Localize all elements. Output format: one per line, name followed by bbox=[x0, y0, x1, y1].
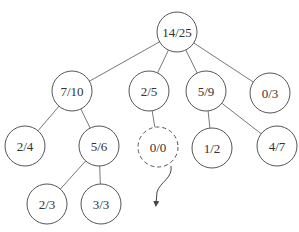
tree-node-n7: 0/0 bbox=[138, 127, 178, 167]
tree-node-n11: 3/3 bbox=[81, 184, 121, 224]
node-label: 5/9 bbox=[198, 84, 215, 99]
node-label: 4/7 bbox=[269, 139, 286, 154]
node-label: 5/6 bbox=[91, 139, 108, 154]
node-label: 0/3 bbox=[262, 86, 279, 101]
tree-node-n1: 7/10 bbox=[52, 71, 92, 111]
tree-node-n9: 4/7 bbox=[257, 126, 297, 166]
edge-n6-n11 bbox=[100, 166, 101, 184]
tree-diagram: 14/257/102/55/90/32/45/60/01/24/72/33/3 bbox=[0, 0, 299, 232]
edge-n2-n7 bbox=[152, 111, 155, 128]
node-label: 1/2 bbox=[204, 141, 221, 156]
tree-node-root: 14/25 bbox=[157, 12, 197, 52]
node-label: 2/3 bbox=[39, 197, 56, 212]
edge-n1-n5 bbox=[38, 106, 59, 131]
node-label: 2/5 bbox=[141, 84, 158, 99]
edge-root-n2 bbox=[158, 50, 169, 73]
tree-node-n4: 0/3 bbox=[250, 73, 290, 113]
edge-root-n3 bbox=[186, 50, 197, 73]
edge-n1-n6 bbox=[81, 109, 90, 128]
tree-node-n5: 2/4 bbox=[5, 126, 45, 166]
tree-node-n2: 2/5 bbox=[129, 71, 169, 111]
node-label: 7/10 bbox=[60, 84, 83, 99]
edge-n6-n10 bbox=[60, 161, 85, 189]
tree-node-n3: 5/9 bbox=[186, 71, 226, 111]
node-label: 14/25 bbox=[162, 25, 192, 40]
node-label: 0/0 bbox=[150, 140, 167, 155]
edge-n3-n9 bbox=[222, 103, 261, 134]
simulation-arrow bbox=[156, 166, 171, 204]
edge-n3-n8 bbox=[208, 111, 210, 128]
edges bbox=[38, 42, 261, 189]
tree-node-n6: 5/6 bbox=[79, 126, 119, 166]
node-label: 3/3 bbox=[93, 197, 110, 212]
tree-node-n8: 1/2 bbox=[192, 128, 232, 168]
node-label: 2/4 bbox=[17, 139, 34, 154]
tree-node-n10: 2/3 bbox=[27, 184, 67, 224]
